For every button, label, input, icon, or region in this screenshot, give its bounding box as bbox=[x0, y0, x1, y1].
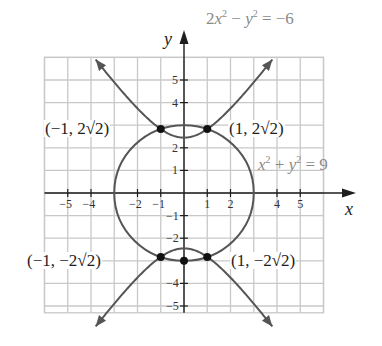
x-tick-label: −4 bbox=[83, 198, 96, 210]
x-tick-label: −1 bbox=[152, 198, 165, 210]
y-tick-label: −5 bbox=[166, 300, 179, 312]
y-tick-label: −1 bbox=[166, 210, 179, 222]
x-axis-label: x bbox=[345, 200, 353, 218]
point-label-1-neg2root2: (1, −2√2) bbox=[230, 252, 296, 269]
y-tick-label: 1 bbox=[172, 164, 178, 176]
x-tick-label: −5 bbox=[59, 198, 72, 210]
intersection-point bbox=[203, 253, 211, 261]
y-tick-label: 4 bbox=[172, 97, 178, 109]
intersection-point bbox=[203, 125, 211, 133]
intersection-point bbox=[157, 253, 165, 261]
x-tick-label: 4 bbox=[274, 198, 280, 210]
y-tick-label: −2 bbox=[166, 232, 179, 244]
y-axis-label: y bbox=[164, 30, 172, 48]
x-axis-arrow-icon bbox=[342, 189, 356, 198]
x-tick-label: 1 bbox=[204, 198, 210, 210]
hyperbola-equation-label: 2x2 − y2 = −6 bbox=[206, 10, 294, 27]
y-tick-label: 5 bbox=[172, 74, 178, 86]
point-label-1-pos2root2: (1, 2√2) bbox=[228, 120, 285, 137]
x-tick-label: 5 bbox=[297, 198, 303, 210]
intersection-point bbox=[157, 125, 165, 133]
y-axis-arrow-icon bbox=[180, 30, 189, 44]
y-tick-label: 2 bbox=[172, 142, 178, 154]
x-tick-label: −2 bbox=[129, 198, 142, 210]
point-label-neg1-neg2root2: (−1, −2√2) bbox=[26, 252, 102, 269]
y-tick-label: −4 bbox=[166, 277, 179, 289]
intersection-point bbox=[180, 257, 188, 265]
x-tick-label: 2 bbox=[228, 198, 234, 210]
circle-equation-label: x2 + y2 = 9 bbox=[258, 156, 328, 173]
point-label-neg1-pos2root2: (−1, 2√2) bbox=[44, 120, 110, 137]
